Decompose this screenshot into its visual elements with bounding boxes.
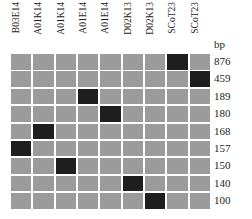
band-cell-present [56,158,76,174]
band-cell-absent [145,124,165,140]
column-header-2: A01K14 [33,4,53,52]
column-header-label: A01K14 [56,2,67,50]
band-cell-absent [56,124,76,140]
band-cell-absent [190,193,210,209]
band-grid-row [11,124,210,140]
column-header-5: A01E14 [100,4,120,52]
band-cell-absent [78,54,98,70]
band-cell-absent [123,158,143,174]
column-header-6: D02K13 [123,4,143,52]
column-header-label: D02K13 [145,2,156,50]
band-cell-absent [100,141,120,157]
column-header-4: A01E14 [78,4,98,52]
band-cell-absent [11,89,31,105]
band-cell-absent [11,124,31,140]
band-cell-absent [78,158,98,174]
band-cell-absent [56,106,76,122]
band-cell-absent [190,54,210,70]
column-header-row: B03E14 A01K14 A01K14 A01E14 A01E14 D02K1… [11,4,210,52]
band-cell-absent [33,54,53,70]
band-cell-absent [123,193,143,209]
band-cell-absent [123,89,143,105]
column-header-label: B03E14 [11,2,22,50]
band-cell-absent [78,106,98,122]
column-header-9: SCoT23 [190,4,210,52]
band-cell-present [123,176,143,192]
bp-tick-label: 100 [214,193,252,209]
band-cell-absent [11,158,31,174]
bp-tick-label: 150 [214,158,252,174]
bp-tick-label: 459 [214,71,252,87]
band-cell-absent [56,71,76,87]
bp-tick-label: 168 [214,124,252,140]
band-cell-absent [190,124,210,140]
band-cell-present [190,71,210,87]
band-grid-row [11,141,210,157]
band-cell-absent [33,141,53,157]
band-cell-absent [167,158,187,174]
band-cell-absent [123,54,143,70]
band-cell-absent [100,89,120,105]
band-cell-absent [167,89,187,105]
band-cell-absent [78,176,98,192]
band-cell-absent [78,124,98,140]
band-cell-present [33,124,53,140]
band-cell-absent [123,71,143,87]
band-cell-absent [100,193,120,209]
band-cell-absent [78,193,98,209]
band-grid-row [11,89,210,105]
band-cell-absent [33,106,53,122]
band-cell-absent [100,158,120,174]
band-grid-row [11,158,210,174]
column-header-label: D02K13 [123,2,134,50]
band-cell-absent [56,141,76,157]
band-cell-absent [56,54,76,70]
band-cell-absent [145,141,165,157]
band-grid-row [11,176,210,192]
band-cell-present [145,193,165,209]
band-cell-absent [123,106,143,122]
bp-tick-label: 876 [214,54,252,70]
band-grid-row [11,54,210,70]
band-cell-present [100,106,120,122]
band-cell-absent [100,54,120,70]
band-cell-absent [145,71,165,87]
bp-tick-label: 157 [214,141,252,157]
band-cell-absent [33,176,53,192]
band-cell-absent [145,158,165,174]
band-cell-present [78,89,98,105]
column-header-label: SCoT23 [190,2,201,50]
gel-band-matrix-figure: B03E14 A01K14 A01K14 A01E14 A01E14 D02K1… [0,0,252,219]
band-cell-absent [167,124,187,140]
band-cell-absent [145,176,165,192]
band-cell-absent [167,176,187,192]
band-cell-absent [33,71,53,87]
band-cell-absent [190,89,210,105]
band-cell-present [11,141,31,157]
column-header-label: A01E14 [100,2,111,50]
band-cell-absent [100,71,120,87]
band-cell-absent [190,106,210,122]
column-header-7: D02K13 [145,4,165,52]
band-cell-absent [11,193,31,209]
band-cell-absent [33,89,53,105]
band-cell-absent [123,124,143,140]
band-cell-absent [145,106,165,122]
band-cell-absent [167,193,187,209]
band-cell-absent [56,176,76,192]
band-cell-absent [167,141,187,157]
band-grid-row [11,193,210,209]
column-header-label: SCoT23 [167,2,178,50]
bp-tick-label: 140 [214,176,252,192]
band-cell-absent [190,158,210,174]
band-cell-absent [11,71,31,87]
column-header-label: A01K14 [33,2,44,50]
band-cell-absent [11,54,31,70]
column-header-label: A01E14 [78,2,89,50]
band-cell-absent [11,176,31,192]
band-cell-absent [78,141,98,157]
band-cell-absent [56,193,76,209]
band-cell-absent [56,89,76,105]
band-cell-absent [78,71,98,87]
band-cell-absent [123,141,143,157]
